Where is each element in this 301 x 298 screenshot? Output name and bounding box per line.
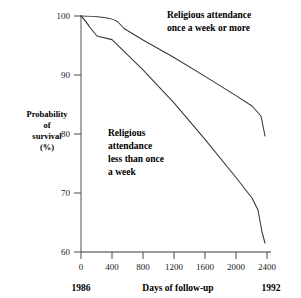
y-axis-label-line-1: Probability <box>27 109 69 119</box>
x-tick-label-1600: 1600 <box>196 262 215 272</box>
x-axis-ticks: 0 400 800 1200 1600 2000 2400 <box>79 252 277 272</box>
footer-start-year: 1986 <box>72 283 91 293</box>
x-tick-label-800: 800 <box>136 262 150 272</box>
footer-end-year: 1992 <box>262 283 281 293</box>
annotation-lower-line-2: attendance <box>108 141 152 151</box>
y-axis-label-line-3: survival <box>32 131 62 141</box>
annotation-lower-line-3: less than once <box>108 154 164 164</box>
x-tick-label-2400: 2400 <box>258 262 277 272</box>
x-tick-label-0: 0 <box>79 262 84 272</box>
y-tick-label-90: 90 <box>61 70 71 80</box>
curve-attendance-weekly-or-more <box>81 16 265 136</box>
y-tick-label-60: 60 <box>61 247 71 257</box>
annotation-lower-line-1: Religious <box>108 128 146 138</box>
annotation-lower-group: Religious attendance less than once a we… <box>108 128 164 177</box>
y-axis-label-line-2: of <box>43 120 50 130</box>
y-axis-label-line-4: (%) <box>40 142 54 152</box>
annotation-upper-group: Religious attendance once a week or more <box>167 10 251 33</box>
chart-canvas: 100 90 80 70 60 0 400 800 1200 1600 2000… <box>0 0 301 298</box>
annotation-lower-line-4: a week <box>108 167 136 177</box>
x-tick-label-1200: 1200 <box>165 262 184 272</box>
annotation-upper-line-1: Religious attendance <box>167 10 251 20</box>
survival-curve-figure: 100 90 80 70 60 0 400 800 1200 1600 2000… <box>0 0 301 298</box>
x-axis-title: Days of follow-up <box>142 283 213 293</box>
annotation-upper-line-2: once a week or more <box>167 23 250 33</box>
x-tick-label-400: 400 <box>105 262 119 272</box>
y-tick-label-80: 80 <box>61 129 71 139</box>
y-tick-label-70: 70 <box>61 188 71 198</box>
y-tick-label-100: 100 <box>57 11 71 21</box>
x-tick-label-2000: 2000 <box>227 262 246 272</box>
footer-group: 1986 Days of follow-up 1992 <box>72 283 281 293</box>
